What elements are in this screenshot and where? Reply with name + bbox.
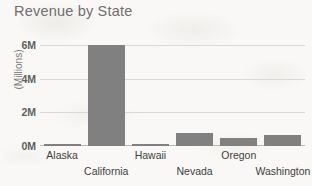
gridline-6m bbox=[40, 45, 305, 46]
plot-area bbox=[40, 45, 305, 146]
x-tick-label: Alaska bbox=[46, 149, 78, 161]
y-tick-label: 0M bbox=[22, 140, 36, 152]
bar bbox=[44, 144, 81, 146]
x-tick-label: California bbox=[84, 165, 128, 177]
y-tick-label: 6M bbox=[22, 39, 36, 51]
bar bbox=[264, 135, 301, 146]
x-tick-label: Washington bbox=[255, 165, 310, 177]
bar bbox=[132, 144, 169, 146]
gridline-4m bbox=[40, 79, 305, 80]
y-axis-title: (Millions) bbox=[13, 30, 24, 110]
chart-screenshot: Revenue by State 6M 4M 2M 0M (Millions) … bbox=[0, 0, 312, 186]
y-tick-label: 2M bbox=[22, 106, 36, 118]
gridline-2m bbox=[40, 112, 305, 113]
bar bbox=[176, 133, 213, 146]
bar bbox=[220, 138, 257, 146]
x-tick-label: Nevada bbox=[176, 165, 212, 177]
y-tick-label: 4M bbox=[22, 73, 36, 85]
x-tick-label: Hawaii bbox=[135, 149, 167, 161]
bar bbox=[88, 45, 125, 146]
x-tick-label: Oregon bbox=[221, 149, 256, 161]
